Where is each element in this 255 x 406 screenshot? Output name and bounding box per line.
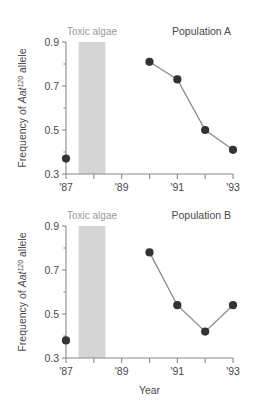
chart-panel-population-a: Toxic algaePopulation A0.30.50.70.9'87'8…: [0, 0, 255, 203]
y-tick-label: 0.3: [44, 352, 59, 364]
data-point: [201, 126, 209, 134]
y-tick-label: 0.9: [44, 220, 59, 232]
y-tick-label: 0.3: [44, 168, 59, 180]
y-axis-title: Frequency of Aat120 allele: [16, 48, 28, 167]
allele-frequency-figure: Toxic algaePopulation A0.30.50.70.9'87'8…: [0, 0, 255, 406]
panel-title-population-a: Population A: [172, 25, 231, 37]
data-point: [173, 301, 181, 309]
x-tick-label: '87: [59, 365, 73, 377]
data-point: [173, 75, 181, 83]
y-tick-label: 0.5: [44, 124, 59, 136]
x-tick-label: '91: [170, 365, 184, 377]
data-point: [145, 248, 153, 256]
y-axis-title: Frequency of Aat120 allele: [16, 232, 28, 351]
data-point: [229, 301, 237, 309]
toxic-algae-band-label: Toxic algae: [67, 26, 117, 37]
toxic-algae-band: [79, 226, 106, 358]
toxic-algae-band: [79, 42, 106, 174]
svg-text:Frequency of Aat120 allele: Frequency of Aat120 allele: [16, 232, 28, 351]
y-tick-label: 0.7: [44, 80, 59, 92]
x-tick-label: '89: [115, 365, 129, 377]
series-line: [150, 62, 234, 150]
population-b-plot: Toxic algaePopulation B0.30.50.70.9'87'8…: [0, 192, 255, 406]
data-point: [62, 155, 70, 163]
toxic-algae-band-label: Toxic algae: [67, 210, 117, 221]
chart-panel-population-b: Toxic algaePopulation B0.30.50.70.9'87'8…: [0, 192, 255, 406]
data-point: [201, 328, 209, 336]
y-tick-label: 0.5: [44, 308, 59, 320]
data-point: [229, 146, 237, 154]
data-point: [145, 58, 153, 66]
x-tick-label: '93: [226, 365, 240, 377]
y-tick-label: 0.9: [44, 36, 59, 48]
population-a-plot: Toxic algaePopulation A0.30.50.70.9'87'8…: [0, 0, 255, 203]
svg-text:Frequency of Aat120 allele: Frequency of Aat120 allele: [16, 48, 28, 167]
data-point: [62, 336, 70, 344]
y-tick-label: 0.7: [44, 264, 59, 276]
x-axis-title: Year: [139, 384, 161, 396]
series-line: [150, 252, 234, 331]
panel-title-population-b: Population B: [171, 209, 231, 221]
